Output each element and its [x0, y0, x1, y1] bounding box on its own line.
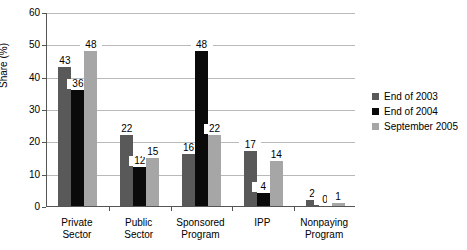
bar-value-label: 14: [265, 150, 287, 160]
bar-value-label: 1: [327, 192, 349, 202]
legend-item[interactable]: End of 2003: [372, 90, 458, 103]
y-axis-tick-label: 50: [8, 40, 40, 50]
bar: [332, 203, 345, 206]
category-separator-tick: [232, 206, 233, 211]
y-axis-tick-mark: [42, 207, 46, 208]
y-axis-tick-label: 30: [8, 105, 40, 115]
y-axis-tick-label: 20: [8, 137, 40, 147]
legend-color-swatch: [372, 93, 379, 100]
y-axis-tick-label: 60: [8, 8, 40, 18]
y-axis-tick-label: 0: [8, 202, 40, 212]
legend-item[interactable]: September 2005: [372, 120, 458, 133]
bar: [120, 135, 133, 206]
bar: [208, 135, 221, 206]
bar: [257, 193, 270, 206]
bar: [133, 167, 146, 206]
category-separator-tick: [171, 206, 172, 211]
category-separator-tick: [294, 206, 295, 211]
bar: [146, 158, 159, 207]
legend-item[interactable]: End of 2004: [372, 105, 458, 118]
legend-label: End of 2004: [384, 106, 438, 117]
y-axis-tick-label: 10: [8, 170, 40, 180]
category-separator-tick: [109, 206, 110, 211]
chart-legend: End of 2003End of 2004September 2005: [372, 90, 458, 135]
x-axis-category-label: Nonpaying Program: [279, 217, 369, 240]
legend-label: September 2005: [384, 121, 458, 132]
bar: [182, 154, 195, 206]
bar: [84, 51, 97, 206]
bar-value-label: 15: [142, 147, 164, 157]
bar-value-label: 17: [239, 140, 261, 150]
bar-value-label: 43: [54, 56, 76, 66]
bar-value-label: 22: [116, 124, 138, 134]
bar-value-label: 48: [191, 40, 213, 50]
y-axis-tick-label: 40: [8, 73, 40, 83]
bar: [270, 161, 283, 206]
bar-chart: Share (%) 0102030405060 4336482212151648…: [0, 0, 467, 250]
bar-value-label: 22: [204, 124, 226, 134]
legend-color-swatch: [372, 108, 379, 115]
gridline: [47, 13, 355, 14]
bar: [244, 151, 257, 206]
plot-area: 43364822121516482217414201: [46, 13, 355, 207]
legend-color-swatch: [372, 123, 379, 130]
bar-value-label: 48: [80, 40, 102, 50]
bar: [71, 90, 84, 206]
legend-label: End of 2003: [384, 91, 438, 102]
